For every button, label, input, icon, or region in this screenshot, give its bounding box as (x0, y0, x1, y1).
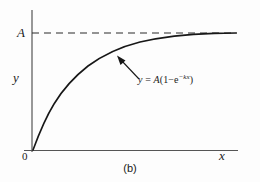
figure-caption: (b) (0, 163, 260, 174)
y-axis-label: y (13, 71, 19, 84)
equation-equals: = (143, 74, 154, 85)
annotation-arrow-shaft (121, 60, 139, 79)
equation-body: (1−e (160, 74, 179, 85)
x-axis-label: x (219, 149, 225, 162)
equation-exponent: −kx (179, 73, 190, 81)
equation-close-paren: ) (190, 74, 193, 85)
exponential-curve (33, 33, 236, 150)
exponential-saturation-figure: A y x 0 y = A(1−e−kx) (b) (0, 0, 260, 182)
asymptote-label-A: A (17, 26, 25, 39)
origin-label: 0 (22, 151, 28, 162)
curve-equation-annotation: y = A(1−e−kx) (138, 75, 193, 85)
